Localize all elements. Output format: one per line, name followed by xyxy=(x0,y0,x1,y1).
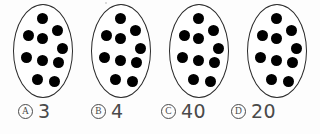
counting-dot xyxy=(110,74,121,85)
counting-dot xyxy=(193,13,204,24)
counting-dot xyxy=(208,25,219,36)
counting-dot xyxy=(271,33,282,44)
counting-dot xyxy=(37,55,48,66)
counting-dot xyxy=(37,13,48,24)
counting-dot xyxy=(52,25,63,36)
counting-dot xyxy=(257,30,268,41)
counting-dot xyxy=(271,55,282,66)
option-value-text: 4 xyxy=(111,102,124,121)
counting-dot xyxy=(266,74,277,85)
answer-options-row: A3B4C40D20 xyxy=(0,100,320,134)
answer-option-b[interactable]: B4 xyxy=(91,102,124,121)
counting-dot xyxy=(271,13,282,24)
counting-dot xyxy=(130,25,141,36)
counting-dot xyxy=(255,52,266,63)
dot-group xyxy=(169,4,229,98)
counting-dot xyxy=(101,30,112,41)
counting-dot xyxy=(177,52,188,63)
counting-dot xyxy=(115,33,126,44)
counting-dot xyxy=(131,57,142,68)
counting-dot xyxy=(32,74,43,85)
dot-group xyxy=(247,4,307,98)
option-letter-badge: B xyxy=(91,104,106,119)
counting-dot xyxy=(193,33,204,44)
answer-option-a[interactable]: A3 xyxy=(18,102,51,121)
counting-dot xyxy=(188,74,199,85)
counting-dot xyxy=(99,52,110,63)
counting-dot xyxy=(37,33,48,44)
counting-worksheet: A3B4C40D20 xyxy=(0,0,320,134)
counting-dot xyxy=(286,25,297,36)
counting-dot xyxy=(213,43,224,54)
counting-dot xyxy=(23,30,34,41)
option-value-text: 3 xyxy=(38,102,51,121)
counting-dot xyxy=(135,43,146,54)
counting-dot xyxy=(205,76,216,87)
answer-option-d[interactable]: D20 xyxy=(231,102,276,121)
counting-dot xyxy=(179,30,190,41)
counting-dot xyxy=(287,57,298,68)
dot-group xyxy=(13,4,73,98)
counting-dot xyxy=(283,76,294,87)
option-letter-badge: A xyxy=(18,104,33,119)
answer-option-c[interactable]: C40 xyxy=(161,102,206,121)
counting-dot xyxy=(209,57,220,68)
counting-dot xyxy=(127,76,138,87)
counting-dot xyxy=(115,55,126,66)
counting-dot xyxy=(193,55,204,66)
counting-dot xyxy=(53,57,64,68)
option-value-text: 40 xyxy=(181,102,206,121)
counting-dot xyxy=(115,13,126,24)
option-letter-badge: D xyxy=(231,104,246,119)
dot-groups-row xyxy=(0,0,320,100)
counting-dot xyxy=(57,43,68,54)
option-value-text: 20 xyxy=(251,102,276,121)
counting-dot xyxy=(21,52,32,63)
counting-dot xyxy=(49,76,60,87)
dot-group xyxy=(91,4,151,98)
option-letter-badge: C xyxy=(161,104,176,119)
counting-dot xyxy=(291,43,302,54)
